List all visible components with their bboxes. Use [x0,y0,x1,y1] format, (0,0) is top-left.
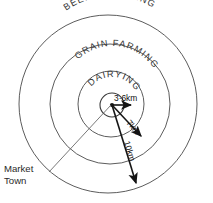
market-town-label-line1: Market [4,163,34,174]
zone-label-middle: GRAIN FARMING [73,38,161,70]
radius-label-10km: 10km [122,140,138,163]
zone-label-outer: BEEF FATTENING [62,0,158,13]
diagram-canvas: BEEF FATTENING GRAIN FARMING DAIRYING 3·… [0,0,213,203]
zone-label-inner: DAIRYING [86,69,143,93]
radius-label-3-6km: 3·6km [114,93,137,103]
von-thunen-diagram: BEEF FATTENING GRAIN FARMING DAIRYING 3·… [0,0,213,203]
market-town-label-line2: Town [4,175,26,186]
